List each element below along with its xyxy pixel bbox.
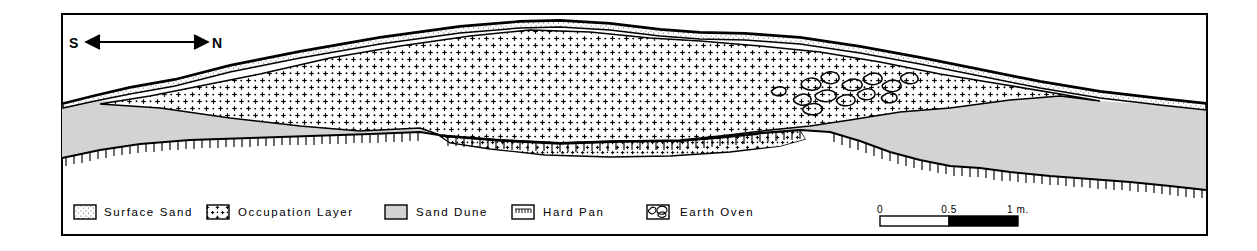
legend-label-earth-oven: Earth Oven [680, 206, 754, 218]
scale-tick-one: 1 m. [1007, 204, 1029, 215]
legend-item-earth-oven: Earth Oven [647, 205, 754, 219]
legend-item-surface-sand: Surface Sand [74, 205, 193, 219]
profile-drawing: S N Surface Sand Occupation Layer [0, 0, 1257, 251]
orientation-label-north: N [212, 35, 223, 51]
orientation-label-south: S [69, 35, 79, 51]
legend-swatch-sand-dune [385, 205, 407, 219]
legend-item-hard-pan: Hard Pan [512, 205, 604, 219]
legend-swatch-occupation-layer [207, 205, 229, 219]
scale-tick-0: 0 [877, 204, 883, 215]
legend-label-sand-dune: Sand Dune [416, 206, 488, 218]
scale-tick-half: 0.5 [941, 204, 957, 215]
legend-item-occupation-layer: Occupation Layer [207, 205, 354, 219]
stratigraphic-figure: S N Surface Sand Occupation Layer [0, 0, 1257, 251]
legend-label-occupation-layer: Occupation Layer [238, 206, 354, 218]
scale-bar-segment-white [880, 216, 949, 226]
legend-item-sand-dune: Sand Dune [385, 205, 488, 219]
scale-bar-segment-black [949, 216, 1018, 226]
legend-label-surface-sand: Surface Sand [104, 206, 193, 218]
legend-label-hard-pan: Hard Pan [543, 206, 604, 218]
legend-swatch-surface-sand [74, 205, 96, 219]
